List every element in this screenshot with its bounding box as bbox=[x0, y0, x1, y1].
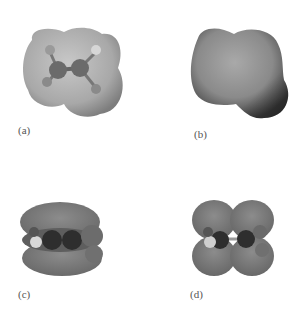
electrostatic-potential-surface-image bbox=[154, 0, 308, 160]
pi-antibonding-orbital-image bbox=[154, 160, 308, 315]
panel-label: (c) bbox=[18, 288, 30, 300]
panel-c: (c) bbox=[0, 160, 154, 315]
panel-label: (a) bbox=[18, 124, 30, 136]
electron-density-surface-image bbox=[0, 0, 154, 160]
panel-label: (d) bbox=[190, 288, 203, 300]
panel-a: (a) bbox=[0, 0, 154, 160]
panel-label: (b) bbox=[194, 128, 207, 140]
panel-d: (d) bbox=[154, 160, 308, 315]
panel-b: (b) bbox=[154, 0, 308, 160]
